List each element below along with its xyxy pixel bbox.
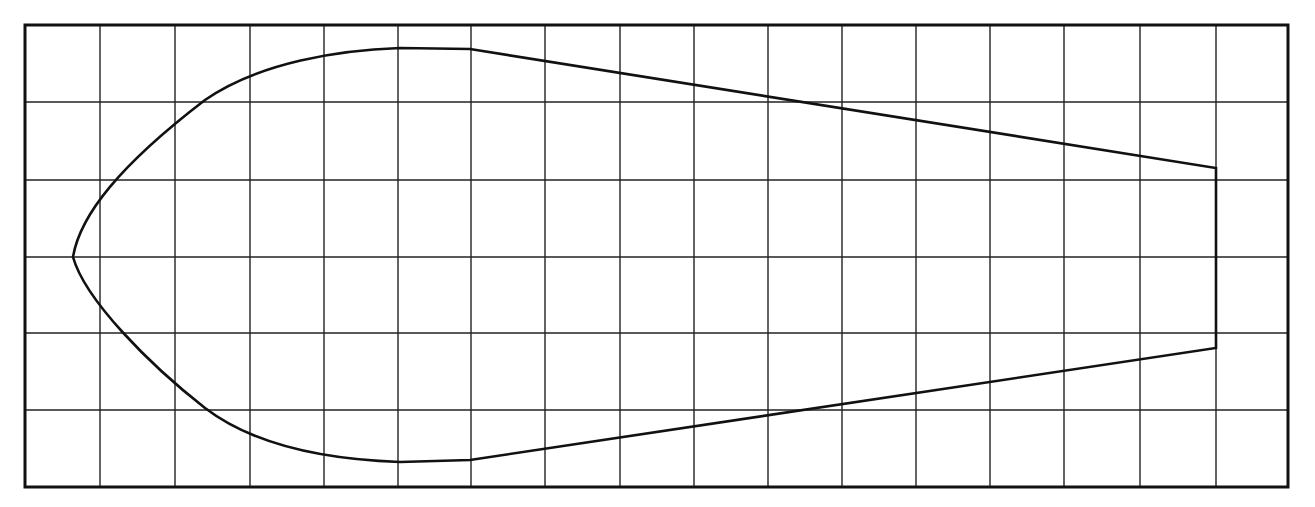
bulb-shape-outline [73,48,1216,462]
diagram-canvas [0,0,1315,507]
grid-shape-diagram [0,0,1315,507]
